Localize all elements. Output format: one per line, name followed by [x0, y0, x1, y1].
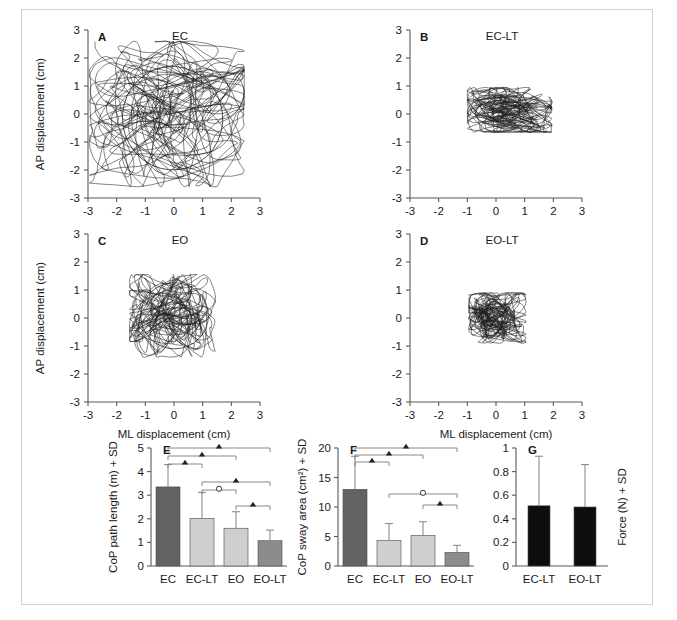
significance-triangle-marker — [216, 444, 222, 449]
x-tick-label: EC — [160, 573, 176, 585]
x-tick-label: 3 — [579, 409, 585, 421]
panel-title: EO-LT — [485, 234, 518, 246]
y-axis-title: CoP path length (m) + SD — [107, 441, 119, 573]
y-tick-label: 10 — [318, 501, 331, 513]
significance-bracket — [389, 490, 457, 498]
y-tick-label: 2 — [74, 52, 80, 64]
x-tick-label: EC-LT — [186, 573, 218, 585]
significance-bracket — [423, 501, 457, 509]
y-tick-label: 3 — [74, 228, 80, 240]
x-tick-label: 3 — [257, 205, 263, 217]
error-bar-ec-lt — [198, 492, 206, 518]
significance-bracket — [202, 478, 270, 486]
x-tick-label: -2 — [434, 205, 444, 217]
bar-eo-lt — [258, 541, 282, 566]
cop-trace — [467, 87, 552, 132]
panel-g-bar-force: 00.20.40.60.81EC-LTEO-LTForce (N) + SDG — [476, 432, 661, 597]
y-tick-label: 3 — [396, 24, 402, 36]
error-bar-eo — [419, 522, 427, 536]
x-tick-label: 0 — [493, 205, 499, 217]
x-tick-label: EO — [415, 573, 432, 585]
panel-letter: E — [163, 444, 171, 456]
y-tick-label: 5 — [325, 531, 331, 543]
panel-letter: D — [420, 235, 428, 247]
significance-triangle-marker — [369, 458, 375, 463]
error-bar-eo-lt — [266, 530, 274, 541]
y-tick-label: 0 — [396, 312, 402, 324]
y-tick-label: -3 — [392, 192, 402, 204]
y-tick-label: 2 — [74, 256, 80, 268]
x-tick-label: -3 — [405, 205, 415, 217]
significance-bracket — [355, 458, 389, 466]
significance-triangle-marker — [403, 444, 409, 449]
significance-bracket — [168, 460, 202, 468]
y-tick-label: 2 — [396, 52, 402, 64]
x-tick-label: -2 — [434, 409, 444, 421]
y-tick-label: 2 — [396, 256, 402, 268]
x-tick-label: -2 — [112, 409, 122, 421]
x-tick-label: 1 — [521, 205, 527, 217]
error-bar-eo-lt — [581, 465, 589, 507]
x-tick-label: 2 — [550, 205, 556, 217]
panel-title: EO — [172, 234, 189, 246]
significance-bracket — [168, 444, 270, 452]
significance-bracket — [168, 452, 236, 460]
y-tick-label: 0.6 — [493, 489, 509, 501]
x-tick-label: EO-LT — [440, 573, 473, 585]
significance-circle-marker — [216, 486, 221, 491]
panel-letter: C — [98, 235, 106, 247]
x-tick-label: -1 — [140, 409, 150, 421]
panel-letter: G — [528, 444, 537, 456]
x-tick-label: 1 — [521, 409, 527, 421]
y-tick-label: -1 — [392, 136, 402, 148]
x-tick-label: 2 — [228, 205, 234, 217]
y-axis-title: CoP sway area (cm²) + SD — [296, 439, 308, 576]
significance-triangle-marker — [233, 478, 239, 483]
significance-triangle-marker — [182, 460, 188, 465]
x-tick-label: EO-LT — [253, 573, 286, 585]
y-tick-label: -1 — [392, 340, 402, 352]
y-tick-label: -3 — [70, 396, 80, 408]
y-axis-title: Force (N) + SD — [616, 468, 628, 546]
significance-bracket — [202, 486, 236, 494]
y-tick-label: 4 — [138, 466, 145, 478]
y-tick-label: 0 — [503, 560, 509, 572]
bar-ec — [156, 487, 180, 566]
x-tick-label: -1 — [140, 205, 150, 217]
x-tick-label: EC-LT — [523, 573, 555, 585]
x-tick-label: 2 — [228, 409, 234, 421]
x-tick-label: -2 — [112, 205, 122, 217]
y-tick-label: 2 — [138, 513, 144, 525]
bar-ec-lt — [190, 518, 214, 566]
bar-ec-lt — [377, 541, 401, 566]
significance-triangle-marker — [199, 452, 205, 457]
x-tick-label: 0 — [171, 205, 177, 217]
significance-circle-marker — [420, 490, 425, 495]
y-axis-title: AP displacement (cm) — [34, 58, 46, 170]
error-bar-ec-lt — [535, 456, 543, 506]
y-tick-label: 1 — [396, 284, 402, 296]
panel-c-scatter-eo: -3-2-10123-3-2-10123CEOAP displacement (… — [30, 218, 320, 423]
x-tick-label: 0 — [171, 409, 177, 421]
significance-bracket — [355, 444, 457, 452]
panel-a-scatter-ec: -3-2-10123-3-2-10123AECAP displacement (… — [30, 14, 320, 214]
x-tick-label: 1 — [199, 409, 205, 421]
x-tick-label: 3 — [579, 205, 585, 217]
y-tick-label: -2 — [70, 368, 80, 380]
x-tick-label: 3 — [257, 409, 263, 421]
y-axis-title: AP displacement (cm) — [34, 262, 46, 374]
x-tick-label: -3 — [405, 409, 415, 421]
bar-eo-lt — [445, 552, 469, 566]
x-tick-label: 2 — [550, 409, 556, 421]
cop-trace — [469, 293, 526, 343]
y-tick-label: 0.4 — [493, 513, 510, 525]
error-bar-eo-lt — [453, 545, 461, 552]
y-tick-label: 0.8 — [493, 466, 509, 478]
y-tick-label: 20 — [318, 442, 331, 454]
panel-title: EC — [172, 30, 188, 42]
x-tick-label: 1 — [199, 205, 205, 217]
x-tick-label: -3 — [83, 205, 93, 217]
y-tick-label: -2 — [70, 164, 80, 176]
cop-trace — [89, 41, 244, 187]
y-tick-label: 3 — [396, 228, 402, 240]
